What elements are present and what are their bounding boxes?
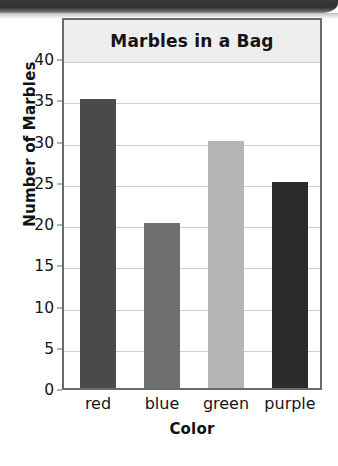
y-tick-label-35: 35 <box>34 92 54 110</box>
y-tick-label-0: 0 <box>44 381 54 399</box>
plot-frame: Marbles in a Bag <box>62 18 322 390</box>
plot-area <box>64 62 320 388</box>
x-tick-label-red: red <box>85 394 111 413</box>
bar-purple <box>272 182 308 388</box>
x-tick-label-purple: purple <box>264 394 315 413</box>
x-axis-tick-labels: redbluegreenpurple <box>62 394 322 420</box>
chart-title-banner: Marbles in a Bag <box>64 20 320 63</box>
y-tick-label-10: 10 <box>34 299 54 317</box>
y-tick-label-25: 25 <box>34 175 54 193</box>
chart-title: Marbles in a Bag <box>110 31 273 51</box>
x-tick-label-blue: blue <box>145 394 180 413</box>
y-tick-label-15: 15 <box>34 257 54 275</box>
x-tick-label-green: green <box>203 394 249 413</box>
bars-group <box>64 62 320 388</box>
bar-chart-figure: Number of Marbles 0510152025303540 Marbl… <box>0 0 338 466</box>
bar-green <box>208 141 244 389</box>
y-tick-label-20: 20 <box>34 216 54 234</box>
y-tick-label-30: 30 <box>34 134 54 152</box>
bar-red <box>80 99 116 388</box>
y-tick-label-5: 5 <box>44 340 54 358</box>
y-tick-label-40: 40 <box>34 51 54 69</box>
y-axis-ticks: 0510152025303540 <box>0 18 62 390</box>
x-axis-title: Color <box>62 420 322 438</box>
bar-blue <box>144 223 180 388</box>
